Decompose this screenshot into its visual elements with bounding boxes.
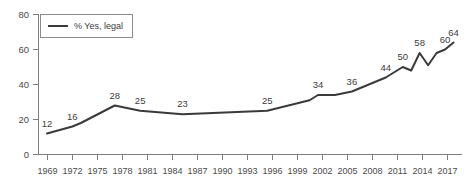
data-point-label: 44 [380,62,391,73]
y-tick-label-80: 80 [18,9,29,20]
x-tick-label-2005: 2005 [337,166,357,176]
data-point-label: 23 [177,98,188,109]
x-tick-label-1975: 1975 [87,166,107,176]
data-point-label: 28 [109,90,120,101]
x-tick-label-2008: 2008 [362,166,382,176]
y-tick-label-40: 40 [18,79,29,90]
x-tick-label-1990: 1990 [212,166,232,176]
x-tick-label-1996: 1996 [262,166,282,176]
data-point-label: 25 [135,95,146,106]
x-axis-tick-labels: 1969 1972 1975 1978 1981 1984 1987 1990 … [37,166,457,176]
line-chart: 80 60 40 20 0 1969 1972 [0,0,467,190]
x-tick-label-2017: 2017 [437,166,457,176]
data-point-label: 58 [414,37,425,48]
x-axis-ticks [48,155,448,161]
data-series-line [47,43,454,134]
data-point-labels: 12162825232534364450586064 [42,27,459,129]
x-tick-label-2002: 2002 [312,166,332,176]
x-tick-label-1999: 1999 [287,166,307,176]
data-point-label: 64 [448,27,459,38]
y-tick-label-20: 20 [18,114,29,125]
x-tick-label-1993: 1993 [237,166,257,176]
chart-canvas: 80 60 40 20 0 1969 1972 [0,0,467,190]
chart-legend: % Yes, legal [41,15,133,38]
data-point-label: 25 [262,95,273,106]
y-tick-label-0: 0 [24,149,29,160]
x-tick-label-1972: 1972 [62,166,82,176]
x-tick-label-1984: 1984 [162,166,182,176]
x-tick-label-1978: 1978 [112,166,132,176]
data-point-label: 12 [42,118,53,129]
legend-label: % Yes, legal [74,21,123,31]
x-tick-label-1981: 1981 [137,166,157,176]
data-point-label: 16 [67,111,78,122]
x-tick-label-2014: 2014 [412,166,432,176]
y-axis-ticks [33,15,39,155]
x-tick-label-1987: 1987 [187,166,207,176]
data-point-label: 36 [347,76,358,87]
data-point-label: 50 [397,51,408,62]
data-point-label: 34 [313,79,324,90]
y-tick-label-60: 60 [18,44,29,55]
x-tick-label-1969: 1969 [37,166,57,176]
x-tick-label-2011: 2011 [388,166,407,176]
